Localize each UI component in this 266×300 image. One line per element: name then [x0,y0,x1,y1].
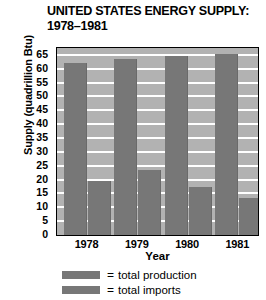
legend-swatch [62,286,100,294]
chart-title: UNITED STATES ENERGY SUPPLY: 1978–1981 [47,3,262,33]
x-axis-tick-label: 1978 [62,238,112,250]
y-axis-tick-label: 10 [18,202,48,210]
y-axis-tick-label: 60 [18,64,48,72]
x-axis-tick-label: 1980 [162,238,212,250]
bar [138,170,161,235]
bar [88,181,111,235]
y-axis-tick-label: 35 [18,133,48,141]
legend-label: total production [118,269,197,281]
legend-swatch [62,271,100,279]
y-axis-tick-label: 40 [18,119,48,127]
x-axis-tick-label: 1979 [112,238,162,250]
bar [114,59,137,235]
y-axis-tick-label: 25 [18,161,48,169]
legend-item: =total production [62,268,262,282]
y-axis-tick-label: 5 [18,216,48,224]
bar [215,54,238,235]
bar [165,56,188,235]
plot-area [56,47,259,236]
bar [189,187,212,235]
y-axis-tick-label: 45 [18,105,48,113]
chart-title-line-1: UNITED STATES ENERGY SUPPLY: [47,3,247,18]
y-axis-tick-label: 30 [18,147,48,155]
y-axis-tick-label: 15 [18,188,48,196]
y-axis-tick-label: 0 [18,230,48,238]
x-axis-label: Year [56,250,259,262]
chart-legend: =total production=total imports [62,268,262,298]
y-axis-tick-label: 55 [18,78,48,86]
y-axis-tick-label: 50 [18,91,48,99]
legend-equals-sign: = [107,284,114,296]
x-axis-tick-label: 1981 [212,238,262,250]
legend-equals-sign: = [107,269,114,281]
y-axis-tick-label: 65 [18,50,48,58]
legend-label: total imports [118,284,181,296]
legend-item: =total imports [62,283,262,297]
bar [64,63,87,235]
y-axis-tick-label: 20 [18,175,48,183]
y-axis-tick-labels: 05101520253035404550556065 [18,48,48,235]
bar [239,198,259,235]
chart-title-line-2: 1978–1981 [47,18,247,33]
